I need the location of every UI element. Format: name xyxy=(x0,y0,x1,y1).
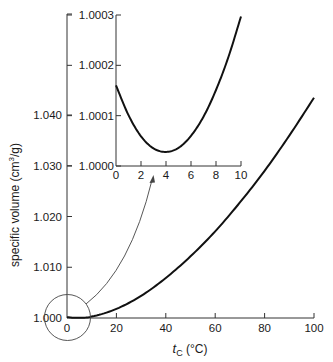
x-axis-label: tC (°C) xyxy=(173,341,208,358)
inset-y-tick-label: 1.0002 xyxy=(79,59,114,71)
x-tick-label: 40 xyxy=(159,322,172,334)
chart-canvas: 0204060801001.0001.0101.0201.0301.040 02… xyxy=(0,0,333,362)
zoom-arrow xyxy=(86,180,152,304)
y-tick-label: 1.030 xyxy=(33,160,62,172)
inset-x-tick-label: 6 xyxy=(188,169,194,181)
y-tick-label: 1.040 xyxy=(33,109,62,121)
x-tick-label: 60 xyxy=(209,322,222,334)
axis-labels: specific volume (cm3/g)tC (°C) xyxy=(7,143,207,358)
inset-x-tick-label: 10 xyxy=(235,169,248,181)
inset-axes: 02468101.00001.00011.00021.0003 xyxy=(67,9,247,181)
y-tick-label: 1.020 xyxy=(33,211,62,223)
x-tick-label: 20 xyxy=(110,322,123,334)
inset-y-tick-label: 1.0001 xyxy=(79,110,114,122)
main-axes: 0204060801001.0001.0101.0201.0301.040 xyxy=(33,14,323,334)
y-axis-label: specific volume (cm3/g) xyxy=(7,143,22,267)
main-data-series xyxy=(67,98,314,318)
inset-curve xyxy=(116,17,241,152)
x-tick-label: 0 xyxy=(64,322,70,334)
inset-x-tick-label: 8 xyxy=(213,169,219,181)
inset-data-series xyxy=(116,17,241,152)
inset-x-tick-label: 2 xyxy=(138,169,144,181)
inset-x-tick-label: 4 xyxy=(163,169,170,181)
arrowhead-icon xyxy=(150,175,156,183)
main-curve xyxy=(67,98,314,318)
y-tick-label: 1.010 xyxy=(33,261,62,273)
x-tick-label: 80 xyxy=(258,322,271,334)
inset-y-tick-label: 1.0000 xyxy=(79,160,114,172)
x-tick-label: 100 xyxy=(304,322,323,334)
y-tick-label: 1.000 xyxy=(33,312,62,324)
inset-y-tick-label: 1.0003 xyxy=(79,9,114,21)
